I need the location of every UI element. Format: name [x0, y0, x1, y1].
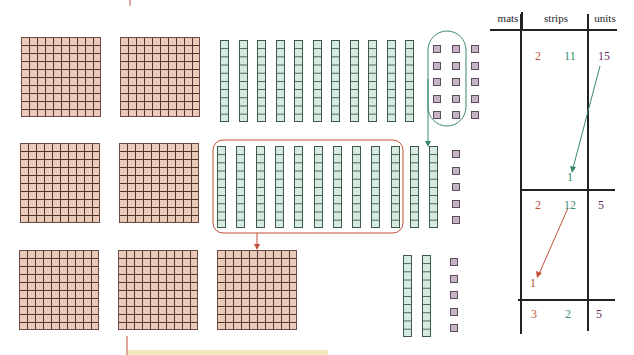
mat-block	[217, 250, 297, 330]
unit-block	[452, 45, 460, 53]
strip-block	[350, 40, 359, 122]
unit-block	[452, 95, 460, 103]
unit-block	[471, 62, 479, 70]
unit-block	[433, 78, 441, 86]
strip-block	[429, 146, 438, 228]
unit-block	[433, 62, 441, 70]
carry-arrow-units	[573, 66, 600, 168]
unit-block	[452, 200, 460, 208]
unit-block	[471, 45, 479, 53]
unit-block	[452, 216, 460, 224]
unit-block	[452, 62, 460, 70]
unit-block	[471, 78, 479, 86]
strip-block	[294, 146, 303, 228]
strip-block	[405, 40, 414, 122]
carry-arrow-strips	[539, 208, 568, 274]
yellow-bar	[128, 350, 328, 355]
header-units: units	[589, 12, 621, 24]
unit-block	[452, 150, 460, 158]
strip-block	[256, 146, 265, 228]
strip-block	[368, 40, 377, 122]
strip-block	[410, 146, 419, 228]
strip-block	[331, 40, 340, 122]
mat-block	[119, 143, 199, 223]
row3-units: 5	[579, 307, 619, 322]
unit-block	[450, 291, 458, 299]
row1-units: 15	[584, 49, 624, 64]
unit-block	[433, 111, 441, 119]
mat-block	[21, 37, 101, 117]
unit-block	[452, 111, 460, 119]
mat-block	[120, 37, 200, 117]
carry-mats: 1	[513, 276, 553, 291]
row2-units: 5	[581, 198, 621, 213]
header-strips: strips	[523, 12, 589, 24]
mat-block	[118, 250, 198, 330]
strip-block	[387, 40, 396, 122]
strip-block	[275, 146, 284, 228]
strip-block	[422, 255, 431, 337]
carry-strips: 1	[550, 170, 590, 185]
strip-block	[314, 146, 323, 228]
unit-block	[450, 308, 458, 316]
strip-block	[236, 146, 245, 228]
strip-block	[333, 146, 342, 228]
unit-block	[450, 275, 458, 283]
unit-block	[452, 183, 460, 191]
strip-block	[276, 40, 285, 122]
strip-block	[217, 146, 226, 228]
strip-block	[391, 146, 400, 228]
header-mats: mats	[493, 12, 523, 24]
strip-block	[294, 40, 303, 122]
strip-block	[313, 40, 322, 122]
strip-block	[371, 146, 380, 228]
unit-block	[450, 324, 458, 332]
unit-block	[452, 167, 460, 175]
unit-block	[433, 45, 441, 53]
unit-block	[452, 78, 460, 86]
mat-block	[20, 143, 100, 223]
strip-block	[220, 40, 229, 122]
strip-block	[257, 40, 266, 122]
unit-block	[471, 95, 479, 103]
strip-block	[352, 146, 361, 228]
unit-block	[471, 111, 479, 119]
strip-block	[239, 40, 248, 122]
mat-block	[19, 250, 99, 330]
unit-block	[433, 95, 441, 103]
strip-block	[403, 255, 412, 337]
unit-block	[450, 258, 458, 266]
